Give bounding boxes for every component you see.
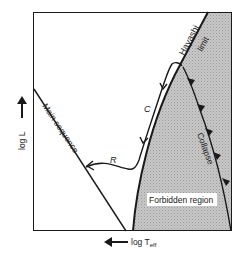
c-track-label: C <box>144 104 151 114</box>
x-axis-text: log T <box>131 237 150 247</box>
hr-diagram: Hayashi limit Main sequence Collapse For… <box>0 0 246 258</box>
y-axis-arrow-icon <box>17 96 27 118</box>
x-axis-label: log Teff <box>131 237 157 248</box>
x-axis-subscript: eff <box>150 242 157 248</box>
r-track-label: R <box>110 155 117 165</box>
y-axis-label: log L <box>17 131 27 150</box>
forbidden-region-label: Forbidden region <box>149 195 214 205</box>
x-axis-arrow-icon <box>104 237 128 247</box>
main-sequence-label: Main sequence <box>40 102 81 156</box>
y-axis-text: log L <box>17 131 27 150</box>
